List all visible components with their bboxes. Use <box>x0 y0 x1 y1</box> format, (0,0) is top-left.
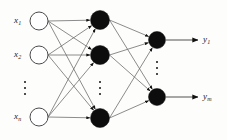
output-node-y1 <box>149 32 166 49</box>
edge-hk-y1 <box>110 48 153 118</box>
input-node-x2 <box>30 46 48 64</box>
label-xn: xn <box>14 112 21 121</box>
input-layer-ellipsis-dot <box>24 93 26 95</box>
hidden-node-h1 <box>91 11 110 30</box>
input-layer-ellipsis-dot <box>24 87 26 89</box>
edge-x1-h1 <box>48 20 90 21</box>
input-layer-ellipsis <box>24 81 27 95</box>
input-layer-ellipsis-dot <box>24 81 26 83</box>
output-arrows <box>166 40 198 97</box>
label-x2-subscript: 2 <box>18 54 21 60</box>
edge-h2-y1 <box>110 43 149 55</box>
edge-x1-hk <box>48 21 95 109</box>
hidden-node-hk <box>91 109 110 128</box>
neural-network-diagram: x1x2xny1ym <box>0 0 227 140</box>
edge-hk-ym <box>110 101 149 118</box>
hidden-node-h2 <box>91 46 110 65</box>
edge-h1-ym <box>110 20 153 89</box>
hidden-layer-ellipsis-dot <box>99 87 101 89</box>
label-y1-subscript: 1 <box>207 39 210 45</box>
label-x2: x2 <box>14 50 21 59</box>
edges-input-to-hidden <box>48 20 95 118</box>
edge-x1-h2 <box>48 21 92 50</box>
label-y1: y1 <box>203 35 210 44</box>
input-node-x1 <box>30 12 48 30</box>
edges-hidden-to-output <box>110 20 153 118</box>
label-x1-subscript: 1 <box>18 20 21 26</box>
edge-xn-h2 <box>48 63 94 117</box>
output-node-ym <box>149 89 166 106</box>
hidden-layer-ellipsis <box>99 81 102 95</box>
input-node-xn <box>30 108 48 126</box>
hidden-layer-ellipsis-dot <box>99 81 101 83</box>
label-ym-subscript: m <box>207 96 211 102</box>
network-graphic <box>0 0 227 140</box>
label-x1: x1 <box>14 16 21 25</box>
label-xn-subscript: n <box>18 116 21 122</box>
output-layer-ellipsis <box>156 61 159 75</box>
output-layer-ellipsis-dot <box>156 61 158 63</box>
output-layer-ellipsis-dot <box>156 67 158 69</box>
hidden-layer-ellipsis-dot <box>99 93 101 95</box>
edge-xn-hk <box>48 117 90 118</box>
edge-h1-y1 <box>110 20 149 37</box>
input-nodes <box>30 12 48 126</box>
label-ym: ym <box>203 92 211 101</box>
output-layer-ellipsis-dot <box>156 73 158 75</box>
edge-x2-h1 <box>48 26 92 55</box>
